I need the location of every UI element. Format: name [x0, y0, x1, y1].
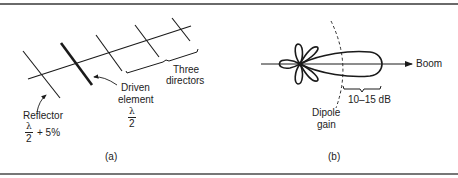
director-element-1 [96, 35, 122, 71]
three-directors-label-line2: directors [166, 75, 204, 86]
boom-label: Boom [416, 58, 442, 69]
reflector-length-suffix: + 5% [37, 127, 60, 138]
driven-pointer-arrow [94, 77, 117, 85]
boom-line [28, 26, 191, 79]
driven-element-label-line2: element [118, 94, 154, 105]
gain-range-label: 10–15 dB [348, 94, 391, 105]
director-element-2 [135, 25, 159, 57]
yagi-antenna-figure: Three directors Driven element λ 2 Refle… [0, 0, 458, 178]
three-directors-label-line1: Three [173, 64, 199, 75]
diagram-graphics [0, 0, 458, 178]
dipole-gain-label-line2: gain [317, 119, 336, 130]
fraction-numerator: λ [128, 106, 136, 118]
panel-b-caption: (b) [328, 151, 340, 162]
pattern-center [298, 62, 302, 66]
driven-element [61, 43, 92, 85]
reflector-element [23, 51, 60, 98]
driven-element-label-line1: Driven [121, 82, 150, 93]
gain-brace [343, 86, 381, 92]
yagi-antenna-diagram [23, 18, 198, 112]
fraction-numerator: λ [25, 121, 33, 133]
driven-element-length-fraction: λ 2 [128, 106, 136, 129]
dipole-gain-label-line1: Dipole [312, 107, 340, 118]
director-element-3 [172, 18, 190, 41]
fraction-denominator: 2 [25, 133, 33, 144]
reflector-length-fraction: λ 2 [25, 121, 33, 144]
reflector-label: Reflector [23, 110, 63, 121]
fraction-denominator: 2 [128, 118, 136, 129]
panel-a-caption: (a) [105, 151, 117, 162]
